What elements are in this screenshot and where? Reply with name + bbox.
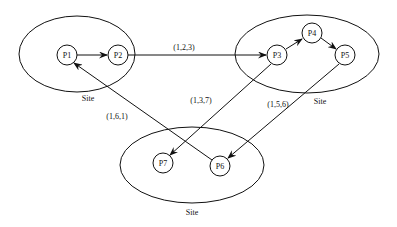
process-node-p7: P7 (153, 153, 173, 173)
edge-label-p5-p6: (1,5,6) (267, 100, 289, 109)
edge-label-p2-p3: (1,2,3) (173, 43, 195, 52)
process-node-p4: P4 (302, 23, 322, 43)
site-label-3: Site (186, 208, 199, 217)
process-node-p2: P2 (108, 45, 128, 65)
process-node-p6: P6 (210, 156, 230, 176)
site-ellipse-3 (120, 127, 264, 203)
site-label-1: Site (82, 94, 95, 103)
process-label-p6: P6 (216, 162, 224, 171)
edge-p5-p6 (228, 64, 339, 158)
edge-p4-p5 (321, 38, 336, 49)
edge-label-p3-p7: (1,3,7) (190, 96, 212, 105)
edge-p3-p4 (286, 39, 302, 49)
process-label-p7: P7 (159, 159, 167, 168)
process-label-p1: P1 (63, 51, 71, 60)
edge-p6-p1 (74, 63, 212, 160)
process-label-p4: P4 (308, 29, 316, 38)
process-node-p1: P1 (57, 45, 77, 65)
process-label-p3: P3 (273, 51, 281, 60)
distributed-process-diagram: Site Site Site (1,2,3) (1,3,7) (1,5,6) (… (0, 0, 397, 227)
edge-label-p6-p1: (1,6,1) (106, 112, 128, 121)
site-label-2: Site (314, 97, 327, 106)
process-label-p5: P5 (341, 51, 349, 60)
process-label-p2: P2 (114, 51, 122, 60)
process-node-p5: P5 (335, 45, 355, 65)
process-node-p3: P3 (267, 45, 287, 65)
